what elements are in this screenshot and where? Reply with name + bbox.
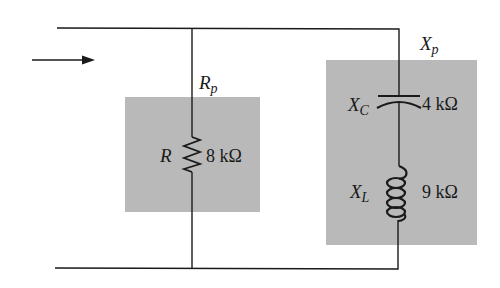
xl-value: 9 kΩ xyxy=(422,182,458,202)
r-value: 8 kΩ xyxy=(206,146,242,166)
xc-value: 4 kΩ xyxy=(422,94,458,114)
xp-label: Xp xyxy=(419,33,439,57)
arrow-right-icon xyxy=(32,56,95,65)
circuit-diagram: Rp R 8 kΩ Xp XC 4 kΩ XL 9 kΩ xyxy=(0,0,500,288)
reactive-branch-shade xyxy=(326,60,477,245)
r-label: R xyxy=(159,145,172,166)
rp-label: Rp xyxy=(198,72,218,96)
